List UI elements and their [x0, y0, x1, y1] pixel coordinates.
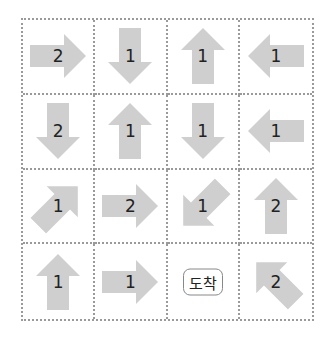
grid-cell: 1: [23, 170, 95, 245]
step-count: 2: [53, 46, 64, 66]
step-count: 1: [270, 46, 281, 66]
step-count: 1: [197, 196, 208, 216]
step-count: 1: [270, 121, 281, 141]
step-count: 2: [270, 196, 281, 216]
step-count: 1: [53, 196, 64, 216]
grid-cell: 1: [95, 20, 167, 95]
grid-cell: 2: [23, 20, 95, 95]
grid-cell: 1: [95, 244, 167, 319]
grid-cell: 1: [23, 244, 95, 319]
grid-cell: 2: [240, 244, 312, 319]
grid-cell: 1: [240, 95, 312, 170]
step-count: 1: [197, 46, 208, 66]
grid-cell: 1: [168, 20, 240, 95]
step-count: 2: [125, 196, 136, 216]
grid-cell: 1: [95, 95, 167, 170]
step-count: 1: [53, 272, 64, 292]
step-count: 1: [125, 121, 136, 141]
step-count: 1: [125, 272, 136, 292]
grid-cell: 1: [240, 20, 312, 95]
step-count: 2: [53, 121, 64, 141]
step-count: 1: [125, 46, 136, 66]
step-count: 2: [270, 272, 281, 292]
grid-cell: 1: [168, 170, 240, 245]
step-count: 1: [197, 121, 208, 141]
grid-cell: 도착: [168, 244, 240, 319]
goal-label: 도착: [183, 268, 223, 295]
grid-cell: 2: [240, 170, 312, 245]
grid-cell: 1: [168, 95, 240, 170]
grid-cell: 2: [95, 170, 167, 245]
grid-cell: 2: [23, 95, 95, 170]
arrow-maze-grid: 21112111121211도착2: [21, 18, 314, 321]
